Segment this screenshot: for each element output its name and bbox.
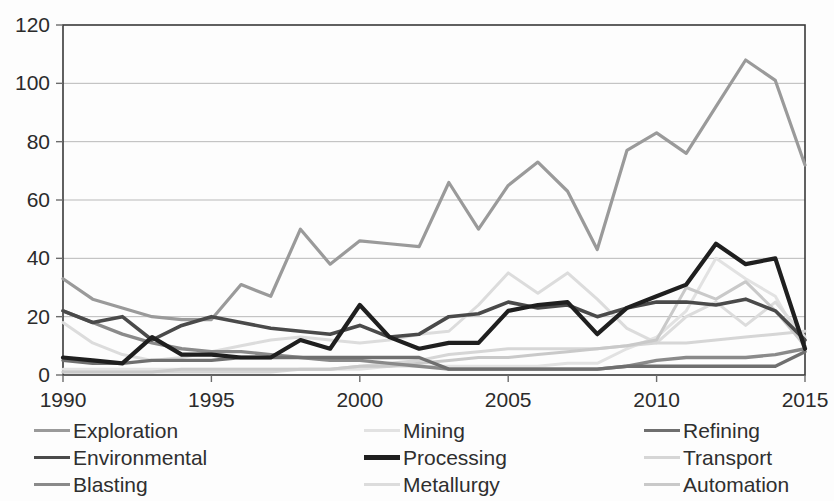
legend-line-mining-icon: [364, 429, 400, 432]
x-tick-label: 2015: [782, 388, 829, 411]
legend-label: Mining: [403, 420, 465, 441]
legend-item-exploration[interactable]: Exploration: [34, 417, 364, 444]
legend-item-blasting[interactable]: Blasting: [34, 471, 364, 498]
chart-canvas: 020406080100120 199019952000200520102015: [0, 0, 834, 415]
legend-label: Automation: [683, 474, 789, 495]
legend-label: Metallurgy: [403, 474, 500, 495]
data-series-group: [63, 60, 805, 372]
legend-item-transport[interactable]: Transport: [644, 444, 834, 471]
legend-item-metallurgy[interactable]: Metallurgy: [364, 471, 644, 498]
legend-label: Processing: [403, 447, 507, 468]
legend-item-environmental[interactable]: Environmental: [34, 444, 364, 471]
legend-item-mining[interactable]: Mining: [364, 417, 644, 444]
legend-label: Environmental: [73, 447, 207, 468]
y-axis-labels: 020406080100120: [15, 13, 50, 386]
legend-line-transport-icon: [644, 456, 680, 459]
legend-line-refining-icon: [644, 429, 680, 432]
x-tick-label: 2010: [633, 388, 680, 411]
y-tick-label: 60: [27, 188, 50, 211]
series-line-exploration: [63, 60, 805, 320]
legend-label: Exploration: [73, 420, 178, 441]
x-axis-labels: 199019952000200520102015: [40, 388, 829, 411]
legend-label: Transport: [683, 447, 772, 468]
y-tick-label: 0: [38, 363, 50, 386]
chart-screenshot: 020406080100120 199019952000200520102015…: [0, 0, 834, 501]
x-tick-label: 2000: [336, 388, 383, 411]
x-axis-ticks: [63, 375, 805, 382]
legend-item-refining[interactable]: Refining: [644, 417, 834, 444]
y-tick-label: 40: [27, 246, 50, 269]
y-tick-label: 100: [15, 71, 50, 94]
y-tick-label: 80: [27, 130, 50, 153]
chart-legend: ExplorationMiningRefiningEnvironmentalPr…: [0, 417, 834, 501]
legend-line-automation-icon: [644, 483, 680, 486]
y-tick-label: 120: [15, 13, 50, 36]
legend-line-blasting-icon: [34, 483, 70, 486]
x-tick-label: 1990: [40, 388, 87, 411]
y-tick-label: 20: [27, 305, 50, 328]
legend-label: Refining: [683, 420, 760, 441]
legend-line-metallurgy-icon: [364, 483, 400, 486]
legend-line-processing-icon: [364, 455, 400, 459]
legend-label: Blasting: [73, 474, 148, 495]
gridlines: [63, 83, 805, 316]
x-tick-label: 1995: [188, 388, 235, 411]
legend-line-environmental-icon: [34, 456, 70, 460]
x-tick-label: 2005: [485, 388, 532, 411]
legend-item-automation[interactable]: Automation: [644, 471, 834, 498]
legend-item-processing[interactable]: Processing: [364, 444, 644, 471]
line-chart: 020406080100120 199019952000200520102015: [0, 0, 834, 415]
legend-line-exploration-icon: [34, 429, 70, 432]
